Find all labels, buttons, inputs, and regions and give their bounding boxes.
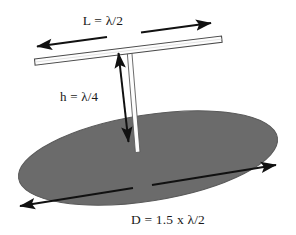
height-label: h = λ/4 [60,89,98,104]
antenna-diagram: L = λ/2 h = λ/4 D = 1.5 x λ/2 [0,0,296,235]
ground-plane [12,95,284,221]
diameter-label: D = 1.5 x λ/2 [131,212,205,227]
length-arrow-right [141,23,211,33]
length-arrow-left [37,37,107,47]
length-label: L = λ/2 [83,13,124,28]
diagram-canvas: L = λ/2 h = λ/4 D = 1.5 x λ/2 [0,0,296,235]
ground-plane-ellipse [12,95,284,221]
